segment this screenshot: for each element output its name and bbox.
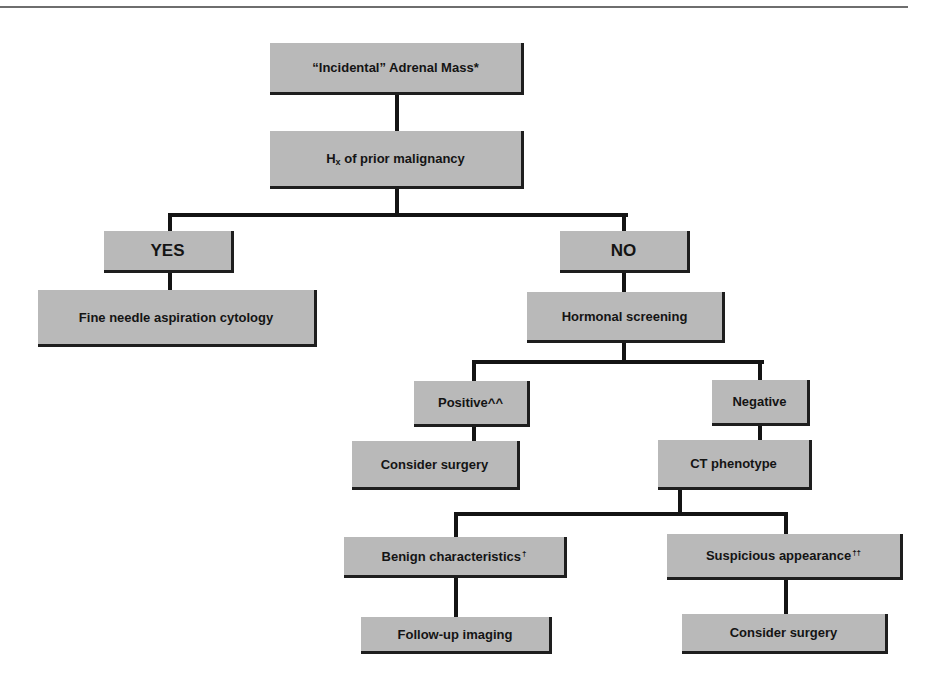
connector-to-yes	[168, 213, 172, 233]
connector-benign-followup	[454, 576, 458, 618]
connector-benign-suspicious-bar	[454, 512, 788, 516]
node-label: Consider surgery	[730, 625, 838, 640]
connector-yes-no-bar	[168, 213, 628, 217]
connector-hormonal-down	[622, 341, 626, 362]
node-consider-surgery-positive: Consider surgery	[352, 441, 520, 490]
top-rule	[0, 6, 908, 8]
connector-to-no	[622, 213, 626, 233]
node-label: “Incidental” Adrenal Mass*	[312, 60, 478, 75]
node-consider-surgery-suspicious: Consider surgery	[682, 614, 888, 654]
node-label: YES	[150, 241, 184, 261]
node-ct-phenotype: CT phenotype	[658, 440, 812, 490]
node-label: Follow-up imaging	[398, 627, 513, 642]
node-no: NO	[560, 231, 690, 273]
node-label: CT phenotype	[690, 456, 777, 471]
node-label: NO	[611, 241, 637, 261]
connector-to-negative	[758, 360, 762, 382]
node-follow-up-imaging: Follow-up imaging	[361, 617, 552, 654]
node-label: Positive^^	[438, 395, 503, 410]
node-label: Suspicious appearance††	[706, 548, 861, 563]
connector-no-hormonal	[622, 270, 626, 294]
connector-suspicious-surgery	[784, 578, 788, 616]
connector-yes-fna	[168, 271, 172, 292]
node-fine-needle-aspiration: Fine needle aspiration cytology	[38, 290, 317, 347]
node-hormonal-screening: Hormonal screening	[527, 292, 725, 343]
node-positive: Positive^^	[414, 381, 530, 427]
node-label: Consider surgery	[381, 457, 489, 472]
connector-history-down	[395, 187, 399, 216]
connector-to-benign	[454, 512, 458, 538]
connector-to-suspicious	[784, 512, 788, 536]
node-negative: Negative	[712, 380, 810, 426]
node-label: Benign characteristics†	[382, 549, 527, 564]
node-label: Fine needle aspiration cytology	[79, 310, 273, 325]
connector-root-history	[395, 93, 399, 133]
node-label: Hormonal screening	[562, 309, 688, 324]
node-label: Hx of prior malignancy	[326, 151, 465, 167]
connector-pos-neg-bar	[472, 360, 764, 364]
node-label: Negative	[732, 394, 786, 409]
connector-to-positive	[472, 360, 476, 382]
node-yes: YES	[104, 231, 234, 273]
node-history-prior-malignancy: Hx of prior malignancy	[270, 131, 524, 189]
connector-ct-down	[678, 488, 682, 514]
node-suspicious-appearance: Suspicious appearance††	[667, 534, 903, 580]
node-incidental-adrenal-mass: “Incidental” Adrenal Mass*	[270, 43, 524, 95]
node-benign-characteristics: Benign characteristics†	[344, 537, 567, 578]
